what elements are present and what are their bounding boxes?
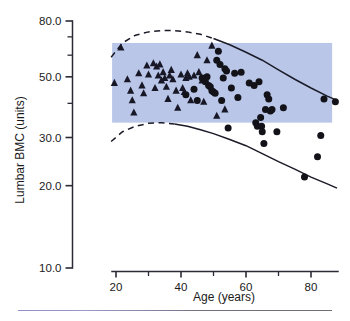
x-tick-label: 80 (305, 281, 318, 293)
data-point-circle (260, 140, 267, 147)
data-point-circle (317, 132, 324, 139)
y-axis-title: Lumbar BMC (units) (13, 96, 27, 203)
data-point-circle (191, 86, 198, 93)
data-point-circle (280, 104, 287, 111)
x-tick-label: 40 (175, 281, 188, 293)
data-point-circle (231, 70, 238, 77)
data-point-circle (194, 97, 201, 104)
data-point-circle (238, 69, 245, 76)
data-point-circle (215, 48, 222, 55)
x-tick-label: 20 (110, 281, 123, 293)
data-point-circle (273, 128, 280, 135)
data-point-circle (256, 78, 263, 85)
reference-band (112, 43, 332, 123)
y-tick-label: 20.0 (39, 180, 61, 192)
data-point-circle (265, 95, 272, 102)
figure-container: 80.050.030.020.010.020406080 Lumbar BMC … (0, 0, 350, 321)
data-point-circle (332, 98, 339, 105)
data-point-circle (204, 73, 211, 80)
x-axis-title: Age (years) (193, 290, 255, 304)
scatter-plot: 80.050.030.020.010.020406080 Lumbar BMC … (0, 0, 350, 321)
data-point-circle (257, 114, 264, 121)
data-point-circle (182, 91, 189, 98)
data-point-circle (259, 128, 266, 135)
y-tick-label: 30.0 (39, 132, 61, 144)
data-point-circle (228, 85, 235, 92)
y-tick-label: 80.0 (39, 15, 61, 27)
data-point-circle (225, 125, 232, 132)
data-point-circle (301, 174, 308, 181)
data-point-circle (269, 106, 276, 113)
data-point-circle (212, 90, 219, 97)
footer-divider (18, 310, 332, 311)
data-point-circle (218, 97, 225, 104)
y-tick-label: 10.0 (39, 262, 61, 274)
data-point-circle (321, 95, 328, 102)
data-point-circle (220, 75, 227, 82)
data-point-circle (314, 153, 321, 160)
data-point-circle (234, 94, 241, 101)
y-tick-label: 50.0 (39, 71, 61, 83)
reference-band-rect (112, 43, 332, 123)
data-point-circle (223, 68, 230, 75)
